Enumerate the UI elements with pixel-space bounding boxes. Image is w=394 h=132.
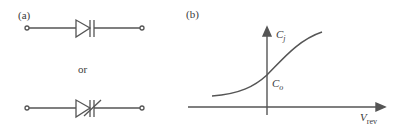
terminal-right-icon xyxy=(140,106,144,110)
panel-a-label: (a) xyxy=(18,9,30,21)
y-axis-label: Cj xyxy=(276,28,286,43)
x-axis-label: Vrev xyxy=(360,111,377,126)
or-text: or xyxy=(78,63,87,75)
diode-triangle-icon xyxy=(76,20,90,37)
c0-label: Co xyxy=(272,77,283,92)
terminal-left-icon xyxy=(25,26,29,30)
x-axis-arrow-icon xyxy=(376,103,385,111)
diode-triangle-icon xyxy=(76,100,90,117)
varactor-symbol-fixed xyxy=(25,20,144,37)
panel-b-label: (b) xyxy=(186,8,199,20)
varactor-symbol-variable xyxy=(25,100,144,117)
terminal-right-icon xyxy=(140,26,144,30)
terminal-left-icon xyxy=(25,106,29,110)
y-axis-arrow-icon xyxy=(263,27,271,36)
